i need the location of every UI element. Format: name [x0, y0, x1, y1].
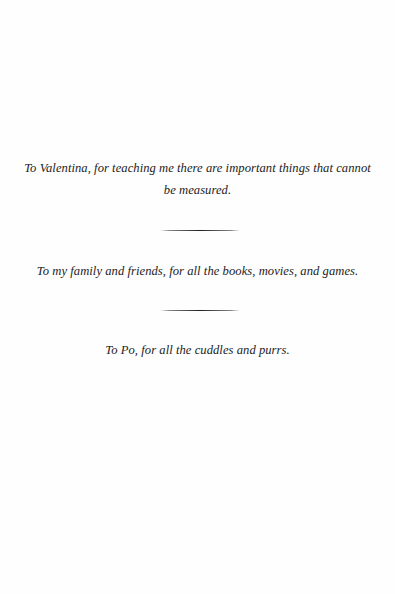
dedication-page: To Valentina, for teaching me there are …: [0, 0, 395, 594]
dedication-po: To Po, for all the cuddles and purrs.: [18, 339, 377, 361]
ornamental-divider: [160, 310, 240, 311]
dedication-family-friends: To my family and friends, for all the bo…: [18, 260, 377, 282]
ornamental-divider: [160, 230, 240, 231]
dedication-valentina: To Valentina, for teaching me there are …: [18, 157, 377, 201]
